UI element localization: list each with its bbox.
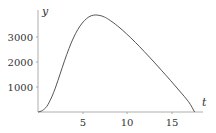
x-ticks: 5 10 15 <box>80 112 179 128</box>
x-axis-label: t <box>202 96 207 109</box>
y-tick-label-3000: 3000 <box>8 32 33 43</box>
y-ticks: 1000 2000 3000 <box>8 32 38 93</box>
x-tick-label-15: 15 <box>166 117 179 128</box>
y-tick-label-2000: 2000 <box>8 57 33 68</box>
chart: 1000 2000 3000 5 10 15 y t <box>0 0 216 133</box>
x-tick-label-10: 10 <box>121 117 134 128</box>
x-tick-label-5: 5 <box>80 117 86 128</box>
data-curve <box>38 15 195 112</box>
y-tick-label-1000: 1000 <box>8 82 33 93</box>
y-axis-label: y <box>41 5 49 18</box>
